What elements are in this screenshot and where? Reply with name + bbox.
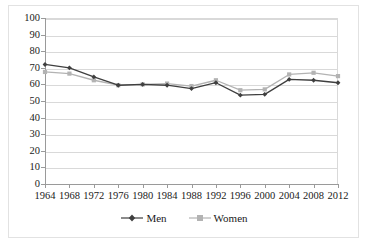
chart-legend: Men Women <box>9 209 360 227</box>
legend-item-women[interactable]: Women <box>189 212 248 224</box>
chart-plot-wrapper: 1009080706050403020100 19641968197219761… <box>9 6 360 239</box>
data-point-men-1996 <box>238 93 243 98</box>
data-point-men-1964 <box>43 62 48 67</box>
data-point-women-2008 <box>311 71 315 75</box>
series-men <box>43 62 341 98</box>
data-point-men-1968 <box>67 65 72 70</box>
legend-label-men: Men <box>146 212 166 224</box>
data-point-women-1996 <box>238 88 242 92</box>
chart-frame: 1009080706050403020100 19641968197219761… <box>8 5 359 238</box>
series-layer <box>9 6 360 239</box>
data-point-women-1964 <box>43 70 47 74</box>
data-point-women-2012 <box>336 74 340 78</box>
legend-marker-men-diamond-icon <box>121 213 143 223</box>
data-point-women-1968 <box>67 72 71 76</box>
legend-label-women: Women <box>214 212 248 224</box>
data-point-men-2008 <box>311 78 316 83</box>
legend-item-men[interactable]: Men <box>121 212 166 224</box>
data-point-men-2012 <box>336 80 341 85</box>
legend-marker-women-square-icon <box>189 213 211 223</box>
data-point-women-2000 <box>263 87 267 91</box>
data-point-women-2004 <box>287 72 291 76</box>
